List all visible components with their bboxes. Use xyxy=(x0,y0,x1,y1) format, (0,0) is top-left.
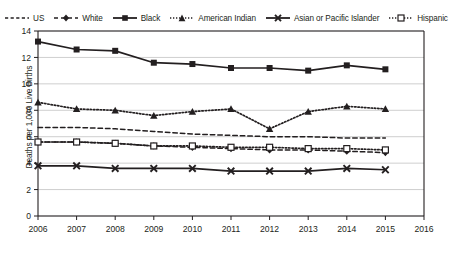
svg-text:14: 14 xyxy=(21,26,31,36)
svg-text:2013: 2013 xyxy=(299,224,318,234)
legend-label-white: White xyxy=(82,14,102,23)
dashed-line-icon xyxy=(4,13,30,23)
svg-text:2014: 2014 xyxy=(337,224,356,234)
legend-item-hispanic: Hispanic xyxy=(388,13,448,23)
svg-text:2010: 2010 xyxy=(183,224,202,234)
solid-square-icon xyxy=(112,13,138,23)
svg-text:2011: 2011 xyxy=(222,224,241,234)
legend-label-black: Black xyxy=(141,14,161,23)
legend-label-us: US xyxy=(33,14,44,23)
legend-label-asian-or-pacific-islander: Asian or Pacific Islander xyxy=(294,14,379,23)
gridlines xyxy=(38,31,424,216)
svg-text:0: 0 xyxy=(26,211,31,221)
svg-text:2016: 2016 xyxy=(414,224,433,234)
plot-area: 02468101214 2006200720082009201020112012… xyxy=(0,26,452,263)
infant-mortality-line-chart: US White Black xyxy=(0,0,452,263)
dotted-open-square-icon xyxy=(388,13,414,23)
svg-text:12: 12 xyxy=(21,53,31,63)
series-american-indian xyxy=(34,99,389,132)
chart-svg: 02468101214 2006200720082009201020112012… xyxy=(0,26,452,263)
svg-text:2009: 2009 xyxy=(144,224,163,234)
svg-text:2007: 2007 xyxy=(67,224,86,234)
y-axis-ticks: 02468101214 xyxy=(21,26,38,221)
series-black xyxy=(35,39,388,74)
legend-label-american-indian: American Indian xyxy=(198,14,256,23)
svg-text:2006: 2006 xyxy=(28,224,47,234)
svg-text:4: 4 xyxy=(26,158,31,168)
legend-item-asian-or-pacific-islander: Asian or Pacific Islander xyxy=(265,13,379,23)
svg-text:10: 10 xyxy=(21,79,31,89)
plot-frame xyxy=(38,31,424,216)
x-axis-ticks: 2006200720082009201020112012201320142015… xyxy=(28,216,433,234)
series-asian-or-pacific-islander xyxy=(35,162,389,174)
dotted-triangle-icon xyxy=(169,13,195,23)
legend-item-american-indian: American Indian xyxy=(169,13,256,23)
solid-cross-icon xyxy=(265,13,291,23)
legend-item-black: Black xyxy=(112,13,161,23)
legend-item-us: US xyxy=(4,13,44,23)
series-white xyxy=(35,138,389,156)
legend-item-white: White xyxy=(53,13,102,23)
dashed-diamond-icon xyxy=(53,13,79,23)
chart-legend: US White Black xyxy=(0,10,452,26)
svg-text:6: 6 xyxy=(26,132,31,142)
data-series-layer xyxy=(34,39,389,175)
legend-label-hispanic: Hispanic xyxy=(417,14,448,23)
svg-text:2015: 2015 xyxy=(376,224,395,234)
svg-text:2008: 2008 xyxy=(106,224,125,234)
svg-text:2012: 2012 xyxy=(260,224,279,234)
svg-text:2: 2 xyxy=(26,185,31,195)
svg-text:8: 8 xyxy=(26,105,31,115)
